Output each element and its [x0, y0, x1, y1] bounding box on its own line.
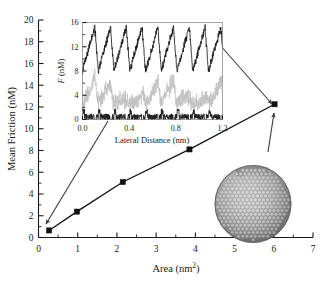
nanoparticle-atom [257, 190, 261, 194]
y-tick-label: 4 [29, 189, 34, 199]
nanoparticle-atom [227, 187, 231, 191]
y-tick-label: 20 [24, 15, 34, 25]
nanoparticle-atom [245, 220, 249, 224]
nanoparticle-atom [253, 212, 257, 216]
nanoparticle-atom [268, 201, 272, 205]
nanoparticle-atom [220, 191, 223, 194]
nanoparticle-atom [224, 183, 227, 186]
nanoparticle-atom [280, 194, 284, 198]
nanoparticle-atom [251, 201, 255, 205]
nanoparticle-atom [247, 172, 251, 176]
x-axis-title: Area (nm2) [152, 261, 200, 275]
y-tick-label: 2 [29, 211, 34, 221]
nanoparticle-atom [241, 198, 245, 202]
nanoparticle-atom [239, 209, 243, 213]
nanoparticle-atom [220, 213, 223, 216]
nanoparticle-atom [270, 183, 274, 187]
nanoparticle-atom [253, 234, 256, 237]
nanoparticle-atom [264, 216, 268, 220]
x-tick-label: 6 [271, 244, 276, 254]
nanoparticle-atom [247, 223, 251, 227]
nanoparticle-atom [266, 205, 270, 209]
nanoparticle-atom [255, 209, 259, 213]
nanoparticle-atom [274, 191, 278, 195]
nanoparticle-atom [245, 169, 248, 172]
nanoparticle-atom [260, 194, 264, 198]
nanoparticle-atom [276, 194, 280, 198]
nanoparticle-atom [251, 216, 255, 220]
nanoparticle-atom [247, 216, 251, 220]
nanoparticle-atom [235, 187, 239, 191]
nanoparticle-atom [226, 201, 230, 205]
nanoparticle-atom [283, 205, 286, 208]
nanoparticle-atom [247, 201, 251, 205]
nanoparticle-atom [256, 172, 260, 176]
nanoparticle-atom [237, 235, 240, 238]
nanoparticle-atom [257, 205, 261, 209]
nanoparticle-atom [247, 180, 251, 184]
nanoparticle-atom [235, 172, 238, 175]
nanoparticle-atom [243, 209, 247, 213]
nanoparticle-atom [278, 213, 282, 217]
nanoparticle-atom [233, 198, 237, 202]
nanoparticle-atom [255, 216, 259, 220]
nanoparticle-atom [262, 169, 265, 172]
nanoparticle-atom [283, 213, 286, 216]
nanoparticle-atom [270, 198, 274, 202]
nanoparticle-atom [272, 194, 276, 198]
inset-x-tick-label: 0.8 [171, 124, 181, 133]
nanoparticle-atom [228, 198, 232, 202]
nanoparticle-atom [258, 227, 262, 231]
nanoparticle-atom [245, 190, 249, 194]
y-tick-label: 0 [29, 233, 34, 243]
nanoparticle-atom [276, 209, 280, 213]
nanoparticle-atom [241, 227, 245, 231]
nanoparticle-atom [241, 235, 244, 238]
nanoparticle-atom [272, 216, 276, 220]
nanoparticle-atom [276, 180, 279, 183]
nanoparticle-atom [235, 216, 239, 220]
y-tick-label: 16 [24, 59, 34, 69]
inset-y-axis-title: F (nM) [56, 58, 66, 84]
nanoparticle-atom [224, 205, 228, 209]
nanoparticle-atom [258, 183, 262, 187]
nanoparticle-atom [249, 212, 253, 216]
nanoparticle-atom [272, 180, 276, 184]
nanoparticle-atom [287, 198, 290, 201]
nanoparticle-atom [243, 231, 247, 235]
nanoparticle-atom [224, 191, 228, 195]
nanoparticle-atom [266, 176, 270, 180]
nanoparticle-atom [266, 220, 270, 224]
nanoparticle-atom [239, 172, 242, 175]
nanoparticle-atom [241, 183, 245, 187]
nanoparticle-atom [222, 216, 225, 219]
inset-plot: 0.00.40.81.20481216 F (nM) Lateral Dista… [56, 18, 228, 145]
nanoparticle-atom [231, 187, 235, 191]
nanoparticle-atom [237, 220, 241, 224]
arrow-inset-to-first-point [46, 121, 108, 224]
nanoparticle-atom [268, 172, 271, 175]
y-axis-title: Mean Friction (nM) [6, 87, 18, 171]
nanoparticle-atom [264, 201, 268, 205]
data-point-marker [187, 147, 192, 152]
nanoparticle-atom [251, 187, 255, 191]
nanoparticle-atom [233, 176, 236, 179]
nanoparticle-atom [260, 172, 264, 176]
nanoparticle-atom [260, 180, 264, 184]
nanoparticle-atom [243, 180, 247, 184]
nanoparticle-atom [251, 209, 255, 213]
y-tick-label: 6 [29, 168, 34, 178]
nanoparticle-atom [222, 224, 225, 227]
data-point-marker [120, 179, 125, 184]
nanoparticle-atom [274, 183, 278, 187]
nanoparticle-atom [280, 202, 284, 206]
nanoparticle-atom [270, 212, 274, 216]
nanoparticle-atom [272, 209, 276, 213]
nanoparticle-atom [247, 187, 251, 191]
nanoparticle-atom [270, 220, 274, 224]
nanoparticle-atom [245, 234, 248, 237]
y-tick-label: 8 [29, 146, 34, 156]
x-tick-label: 2 [115, 244, 120, 254]
nanoparticle-atom [274, 212, 278, 216]
nanoparticle-atom [247, 194, 251, 198]
